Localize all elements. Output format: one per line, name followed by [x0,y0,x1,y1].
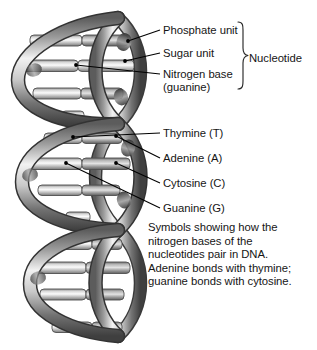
label-cytosine: Cytosine (C) [163,177,225,190]
figure-caption: Symbols showing how the nitrogen bases o… [148,221,316,289]
base-pair-rung [38,185,120,196]
label-phosphate-unit: Phosphate unit [163,24,238,37]
nucleotide-brace [238,22,248,89]
label-thymine: Thymine (T) [163,127,223,140]
label-nitrogen-base: Nitrogen base [163,68,233,81]
base-pair-rung [34,262,130,274]
label-adenine: Adenine (A) [163,152,222,165]
label-guanine: Guanine (G) [163,202,225,215]
label-nitrogen-base-guanine: (guanine) [163,81,210,94]
base-pair-rung [40,289,124,300]
base-pair-rungs [22,35,134,333]
label-sugar-unit: Sugar unit [163,47,214,60]
base-pair-rung [33,88,123,99]
label-nucleotide: Nucleotide [249,52,302,65]
